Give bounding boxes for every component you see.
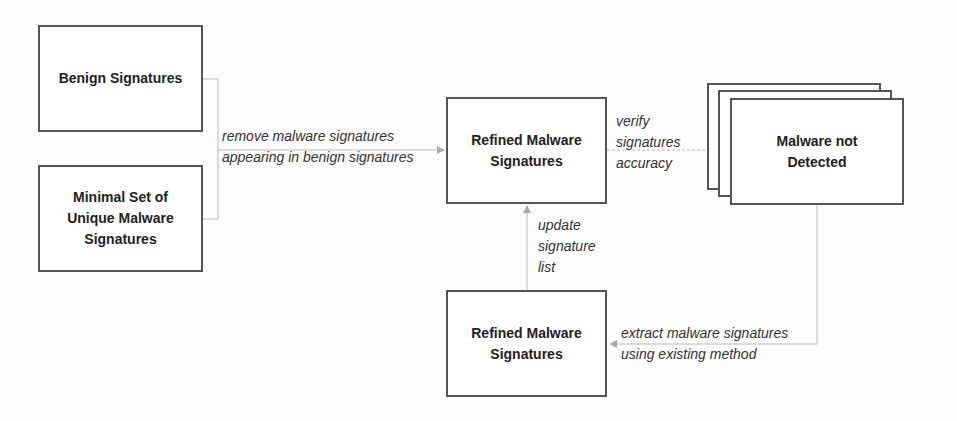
refined-signatures-top-node: Refined Malware Signatures <box>446 97 607 204</box>
node-label: Malware not Detected <box>777 131 858 173</box>
minimal-set-node: Minimal Set of Unique Malware Signatures <box>38 165 203 272</box>
verify-edge-label: verify signatures accuracy <box>616 111 681 174</box>
update-edge-label: update signature list <box>538 215 596 278</box>
node-label: Benign Signatures <box>59 68 183 89</box>
benign-signatures-node: Benign Signatures <box>38 25 203 132</box>
node-label: Minimal Set of Unique Malware Signatures <box>67 187 174 250</box>
remove-edge-label: remove malware signatures appearing in b… <box>222 126 413 168</box>
extract-edge-label: extract malware signatures using existin… <box>621 323 788 365</box>
diagram-canvas: Benign Signatures Minimal Set of Unique … <box>0 0 957 421</box>
malware-not-detected-node: Malware not Detected <box>730 98 904 205</box>
refined-signatures-bottom-node: Refined Malware Signatures <box>446 290 607 397</box>
bracket-connector <box>203 79 218 219</box>
node-label: Refined Malware Signatures <box>471 323 581 365</box>
node-label: Refined Malware Signatures <box>471 130 581 172</box>
